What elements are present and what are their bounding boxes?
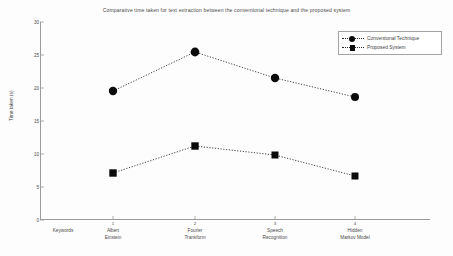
x-axis-label-fourier-transform: 2 Fourier Transform — [150, 221, 240, 241]
legend-item-conventional-technique: Conventional Technique — [342, 34, 438, 43]
y-tick-label-15: 15 — [19, 119, 39, 124]
y-axis-title: Time taken (s) — [9, 91, 14, 121]
y-tick-label-25: 25 — [19, 53, 39, 58]
x-tick-name: Fourier Transform — [150, 227, 240, 241]
x-tick-name: Hidden Markov Model — [310, 227, 400, 241]
x-axis-label-hidden-markov-model: 4 Hidden Markov Model — [310, 221, 400, 241]
chart-title: Comparative time taken for text extracti… — [0, 7, 453, 13]
legend-label: Conventional Technique — [364, 36, 419, 41]
x-axis-label-speech-recognition: 3 Speech Recognition — [230, 221, 320, 241]
x-tick-name: Albert Einstein — [68, 227, 158, 241]
chart-figure: Comparative time taken for text extracti… — [0, 0, 453, 256]
chart-legend: Conventional Technique Proposed System — [338, 31, 442, 55]
legend-label: Proposed System — [364, 45, 406, 50]
y-tick-label-20: 20 — [19, 86, 39, 91]
legend-item-proposed-system: Proposed System — [342, 43, 438, 52]
y-tick-label-10: 10 — [19, 152, 39, 157]
y-tick-label-5: 5 — [19, 185, 39, 190]
square-marker-icon — [342, 43, 364, 52]
y-tick-label-30: 30 — [19, 20, 39, 25]
circle-marker-icon — [342, 34, 364, 43]
x-axis-label-albert-einstein: 1 Albert Einstein — [68, 221, 158, 241]
x-tick-name: Speech Recognition — [230, 227, 320, 241]
